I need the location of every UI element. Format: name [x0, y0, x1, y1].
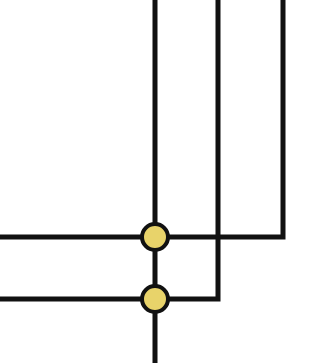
upper-wire	[0, 0, 283, 237]
diagram-canvas	[0, 0, 321, 363]
wiring-diagram	[0, 0, 321, 363]
lower-wire	[0, 0, 218, 299]
upper-junction-dot-icon	[142, 224, 168, 250]
lower-junction-dot-icon	[142, 286, 168, 312]
